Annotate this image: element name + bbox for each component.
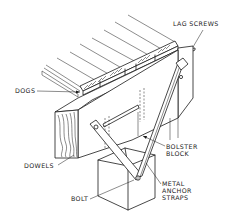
label-dogs: DOGS bbox=[15, 88, 35, 95]
bolster-block bbox=[55, 46, 195, 158]
plank-side-layers bbox=[42, 71, 78, 97]
diagram-drawing bbox=[0, 0, 238, 219]
label-dowels: DOWELS bbox=[24, 163, 54, 170]
label-bolt: BOLT bbox=[71, 196, 88, 203]
connection-diagram: LAG SCREWS DOGS DOWELS BOLSTER BLOCK BOL… bbox=[0, 0, 238, 219]
label-bolster-block-2: BLOCK bbox=[166, 151, 189, 158]
label-metal-anchor-straps-3: STRAPS bbox=[162, 195, 188, 202]
label-lag-screws: LAG SCREWS bbox=[173, 21, 219, 28]
